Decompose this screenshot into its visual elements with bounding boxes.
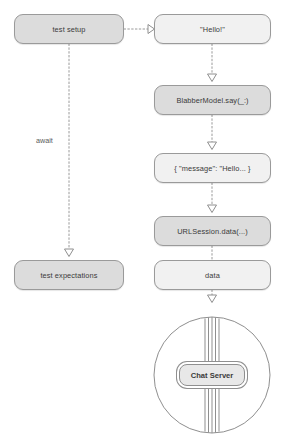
node-blabber-say-label: BlabberModel.say(_:) [176, 96, 248, 105]
node-blabber-say[interactable]: BlabberModel.say(_:) [154, 85, 271, 115]
node-test-expectations[interactable]: test expectations [14, 260, 124, 290]
node-urlsession-data[interactable]: URLSession.data(...) [154, 216, 271, 246]
node-urlsession-data-label: URLSession.data(...) [177, 227, 248, 236]
node-json-message-label: { "message": "Hello... } [174, 164, 250, 173]
arrowhead-icon [208, 142, 217, 150]
edge-hello-to-blabber-say [208, 44, 217, 82]
node-hello-label: "Hello!" [200, 25, 225, 34]
node-test-setup-label: test setup [52, 25, 85, 34]
edge-blabber-say-to-json-message [208, 115, 217, 150]
edge-json-message-to-urlsession-data [208, 183, 217, 213]
edge-test-setup-to-hello [124, 25, 155, 34]
node-test-setup[interactable]: test setup [14, 14, 124, 44]
edge-label-await: await [36, 136, 53, 145]
edge-test-setup-to-test-expectations [65, 44, 74, 257]
node-data[interactable]: data [154, 260, 271, 290]
chat-server-label[interactable]: Chat Server [179, 364, 245, 386]
arrowhead-icon [208, 74, 217, 82]
chat-server-label-text: Chat Server [191, 371, 234, 380]
edge-data-to-chat-server [208, 290, 217, 303]
arrowhead-icon [65, 249, 74, 257]
arrowhead-icon [208, 295, 217, 303]
node-test-expectations-label: test expectations [40, 271, 97, 280]
node-hello[interactable]: "Hello!" [154, 14, 271, 44]
node-json-message[interactable]: { "message": "Hello... } [154, 153, 271, 183]
arrowhead-icon [208, 205, 217, 213]
node-data-label: data [205, 271, 220, 280]
